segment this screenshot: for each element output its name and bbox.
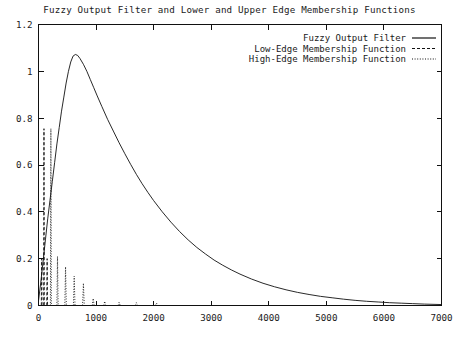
x-tick-label: 5000	[315, 312, 337, 323]
series-spike	[47, 259, 48, 306]
series-spike	[57, 256, 58, 305]
y-tick-label: 0.4	[16, 206, 33, 217]
x-tick-label: 4000	[258, 312, 280, 323]
legend-label: Low-Edge Membership Function	[254, 44, 406, 54]
series-spike	[65, 267, 67, 306]
axes-group: 0100020003000400050006000700000.20.40.60…	[16, 19, 453, 323]
series-spike	[73, 276, 75, 305]
x-tick-label: 7000	[430, 312, 452, 323]
y-tick-label: 0.6	[16, 159, 33, 170]
plot-area: 0100020003000400050006000700000.20.40.60…	[0, 0, 459, 347]
x-tick-label: 0	[36, 312, 42, 323]
y-tick-label: 1	[27, 66, 33, 77]
x-tick-label: 3000	[200, 312, 222, 323]
series-spike	[104, 301, 106, 305]
series-spike	[50, 129, 51, 306]
y-tick-label: 0	[27, 300, 33, 311]
series-spike	[92, 298, 94, 305]
legend-label: High-Edge Membership Function	[249, 54, 406, 64]
series-spike	[83, 283, 85, 305]
x-tick-label: 1000	[85, 312, 107, 323]
legend-group: Fuzzy Output FilterLow-Edge Membership F…	[249, 33, 436, 64]
y-tick-label: 1.2	[16, 19, 33, 30]
y-tick-label: 0.8	[16, 113, 33, 124]
series-spike	[41, 259, 42, 306]
y-tick-label: 0.2	[16, 253, 33, 264]
plot-frame	[39, 25, 442, 306]
series-group	[39, 54, 442, 305]
series-spike	[44, 129, 45, 306]
legend-label: Fuzzy Output Filter	[303, 33, 407, 43]
chart-figure: Fuzzy Output Filter and Lower and Upper …	[0, 0, 459, 347]
x-tick-label: 2000	[143, 312, 165, 323]
series-line	[39, 54, 442, 304]
x-tick-label: 6000	[373, 312, 395, 323]
